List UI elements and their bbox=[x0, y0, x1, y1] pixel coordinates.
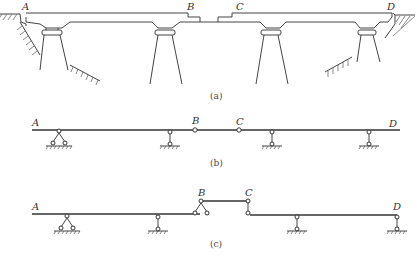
right-slope-ground bbox=[325, 57, 352, 77]
pier-2 bbox=[150, 30, 182, 84]
panel-c-hierarchy-diagram: A B C D (c) bbox=[31, 187, 407, 249]
hinge-b bbox=[193, 128, 197, 132]
hinge-c bbox=[237, 128, 241, 132]
label-c: C bbox=[236, 116, 244, 127]
caption-c: (c) bbox=[210, 239, 222, 249]
label-d: D bbox=[392, 201, 401, 212]
pier-4 bbox=[357, 30, 380, 62]
left-slope-ground bbox=[70, 65, 100, 85]
right-abutment-ground bbox=[385, 13, 415, 38]
label-d: D bbox=[388, 118, 397, 129]
pier-1 bbox=[40, 28, 68, 70]
link-c bbox=[246, 199, 250, 215]
roller-support-3 bbox=[287, 215, 307, 234]
bridge-structure-diagram: A B C D (a) bbox=[0, 0, 417, 260]
roller-support-2 bbox=[148, 215, 168, 234]
label-c: C bbox=[245, 187, 253, 198]
caption-a: (a) bbox=[210, 91, 222, 101]
panel-a-bridge-elevation: A B C D (a) bbox=[0, 1, 415, 101]
roller-support-4 bbox=[387, 215, 407, 234]
label-a: A bbox=[31, 201, 39, 212]
label-c: C bbox=[236, 1, 244, 12]
roller-support-3 bbox=[262, 130, 282, 149]
fixed-hinge-support-1 bbox=[46, 129, 72, 149]
left-abutment-ground bbox=[0, 14, 40, 55]
label-b: B bbox=[197, 187, 205, 198]
caption-b: (b) bbox=[210, 158, 223, 168]
bridge-deck bbox=[26, 13, 392, 28]
label-a: A bbox=[31, 117, 39, 128]
label-b: B bbox=[191, 115, 199, 126]
label-d: D bbox=[386, 1, 395, 12]
roller-support-2 bbox=[160, 130, 180, 149]
panel-b-computational-model: A B C D (b) bbox=[31, 115, 400, 168]
label-a: A bbox=[21, 1, 29, 12]
pier-3 bbox=[256, 30, 288, 84]
fixed-hinge-support-1 bbox=[54, 214, 80, 234]
roller-support-4 bbox=[359, 130, 379, 149]
label-b: B bbox=[186, 1, 194, 12]
